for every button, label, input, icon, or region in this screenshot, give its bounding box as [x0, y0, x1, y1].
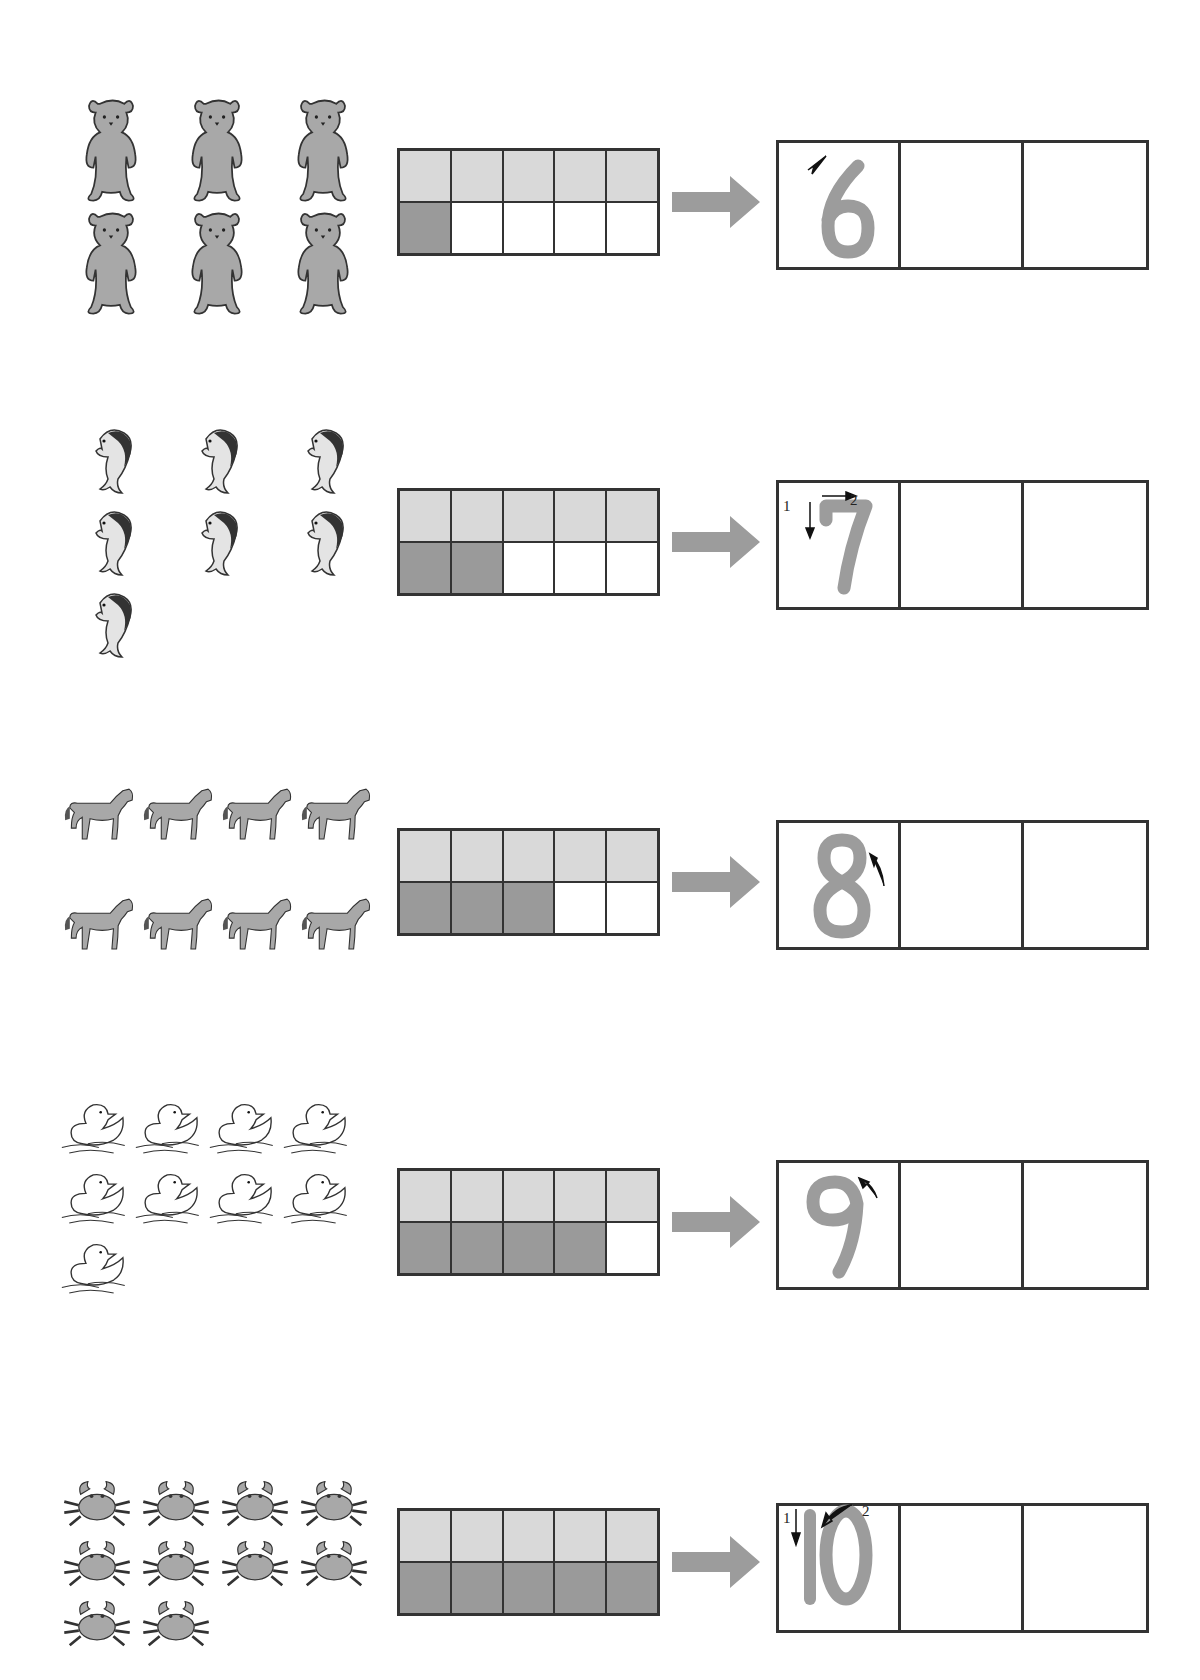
ten-frame-cell-filled — [503, 1222, 555, 1274]
stroke-order-label: 1 — [783, 1510, 791, 1527]
dolphin-icon — [85, 425, 137, 509]
right-arrow-icon — [672, 516, 762, 572]
crab-icon — [60, 1598, 134, 1652]
ten-frame — [397, 1168, 660, 1276]
write-digit-box[interactable] — [901, 143, 1023, 267]
write-digit-box[interactable] — [1024, 823, 1146, 947]
write-digit-box[interactable] — [901, 1163, 1023, 1287]
stroke-order-label: 2 — [850, 492, 858, 509]
bear-icon — [184, 95, 250, 209]
crab-icon — [297, 1478, 371, 1532]
ten-frame-cell-empty — [606, 1222, 658, 1274]
ten-frame-cell-top — [554, 1510, 606, 1562]
dolphin-icon — [191, 507, 243, 591]
ten-frame-cell-filled — [503, 882, 555, 934]
crab-icon — [60, 1478, 134, 1532]
duck-icon — [60, 1165, 134, 1235]
ten-frame-cell-top — [606, 1510, 658, 1562]
horse-icon — [220, 895, 298, 965]
ten-frame-cell-top — [606, 490, 658, 542]
trace-digit-7 — [790, 488, 880, 602]
ten-frame-cell-filled — [399, 1222, 451, 1274]
ten-frame-cell-empty — [606, 542, 658, 594]
dolphin-icon — [297, 425, 349, 509]
ten-frame-cell-empty — [606, 882, 658, 934]
bear-icon — [78, 95, 144, 209]
ten-frame-cell-top — [399, 150, 451, 202]
crab-icon — [60, 1538, 134, 1592]
duck-icon — [134, 1165, 208, 1235]
ten-frame-cell-filled — [451, 1222, 503, 1274]
ten-frame-cell-empty — [554, 542, 606, 594]
ten-frame-cell-filled — [451, 882, 503, 934]
trace-digit-8 — [800, 830, 890, 944]
ten-frame — [397, 1508, 660, 1616]
duck-icon — [208, 1095, 282, 1165]
write-digit-box[interactable] — [1024, 1506, 1146, 1630]
ten-frame-cell-filled — [554, 1222, 606, 1274]
ten-frame — [397, 148, 660, 256]
dolphin-icon — [191, 425, 243, 509]
ten-frame-cell-top — [451, 150, 503, 202]
crab-icon — [297, 1538, 371, 1592]
trace-digit-9 — [795, 1170, 885, 1284]
horse-icon — [141, 785, 219, 855]
ten-frame-cell-top — [399, 1510, 451, 1562]
bear-icon — [78, 208, 144, 322]
horse-icon — [299, 785, 377, 855]
ten-frame-cell-filled — [399, 542, 451, 594]
ten-frame-cell-filled — [399, 1562, 451, 1614]
dolphin-icon — [297, 507, 349, 591]
write-digit-box[interactable] — [1024, 1163, 1146, 1287]
crab-icon — [218, 1478, 292, 1532]
duck-icon — [282, 1095, 356, 1165]
ten-frame-cell-top — [606, 1170, 658, 1222]
duck-icon — [282, 1165, 356, 1235]
ten-frame-cell-top — [451, 1510, 503, 1562]
right-arrow-icon — [672, 1196, 762, 1252]
ten-frame-cell-empty — [503, 542, 555, 594]
bear-icon — [290, 208, 356, 322]
right-arrow-icon — [672, 176, 762, 232]
ten-frame-cell-top — [399, 1170, 451, 1222]
ten-frame-cell-top — [606, 830, 658, 882]
write-digit-box[interactable] — [901, 1506, 1023, 1630]
duck-icon — [208, 1165, 282, 1235]
crab-icon — [218, 1538, 292, 1592]
stroke-order-label: 2 — [862, 1503, 870, 1520]
ten-frame-cell-top — [451, 1170, 503, 1222]
crab-icon — [139, 1598, 213, 1652]
trace-digit-10 — [780, 1497, 890, 1616]
ten-frame-cell-empty — [503, 202, 555, 254]
duck-icon — [134, 1095, 208, 1165]
ten-frame-cell-filled — [554, 1562, 606, 1614]
write-digit-box[interactable] — [901, 483, 1023, 607]
horse-icon — [141, 895, 219, 965]
right-arrow-icon — [672, 856, 762, 912]
ten-frame-cell-empty — [606, 202, 658, 254]
write-digit-box[interactable] — [1024, 143, 1146, 267]
horse-icon — [62, 785, 140, 855]
duck-icon — [60, 1235, 134, 1305]
write-digit-box[interactable] — [901, 823, 1023, 947]
ten-frame — [397, 488, 660, 596]
bear-icon — [290, 95, 356, 209]
ten-frame-cell-filled — [399, 882, 451, 934]
bear-icon — [184, 208, 250, 322]
horse-icon — [62, 895, 140, 965]
ten-frame-cell-filled — [503, 1562, 555, 1614]
horse-icon — [299, 895, 377, 965]
duck-icon — [60, 1095, 134, 1165]
horse-icon — [220, 785, 298, 855]
ten-frame-cell-top — [503, 490, 555, 542]
ten-frame-cell-top — [451, 830, 503, 882]
ten-frame-cell-top — [554, 150, 606, 202]
ten-frame-cell-empty — [554, 882, 606, 934]
write-digit-box[interactable] — [1024, 483, 1146, 607]
ten-frame-cell-top — [606, 150, 658, 202]
ten-frame-cell-top — [503, 150, 555, 202]
ten-frame-cell-filled — [451, 542, 503, 594]
crab-icon — [139, 1478, 213, 1532]
ten-frame-cell-top — [399, 830, 451, 882]
ten-frame-cell-filled — [399, 202, 451, 254]
